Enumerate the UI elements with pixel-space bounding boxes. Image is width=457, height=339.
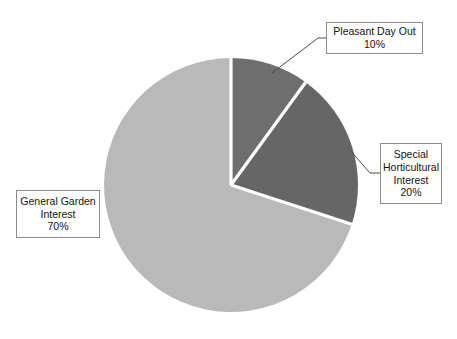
callout-pleasant-day-out[interactable]: Pleasant Day Out 10% — [326, 22, 423, 54]
callout-special-horticultural-interest-name-line2: Horticultural — [383, 161, 439, 174]
callout-general-garden-interest-value: 70% — [47, 220, 68, 233]
callout-general-garden-interest-name-line2: Interest — [40, 208, 75, 221]
callout-special-horticultural-interest-name-line1: Special — [394, 148, 428, 161]
callout-special-horticultural-interest-value: 20% — [400, 186, 421, 199]
callout-pleasant-day-out-name: Pleasant Day Out — [333, 25, 415, 38]
callout-special-horticultural-interest-name-line3: Interest — [393, 174, 428, 187]
pie-chart: Pleasant Day Out 10% Special Horticultur… — [0, 0, 457, 339]
callout-pleasant-day-out-value: 10% — [364, 38, 385, 51]
callout-special-horticultural-interest[interactable]: Special Horticultural Interest 20% — [380, 143, 442, 204]
callout-general-garden-interest[interactable]: General Garden Interest 70% — [16, 190, 100, 238]
leader-line-pleasant-day-out — [272, 38, 326, 73]
callout-general-garden-interest-name-line1: General Garden — [20, 195, 95, 208]
